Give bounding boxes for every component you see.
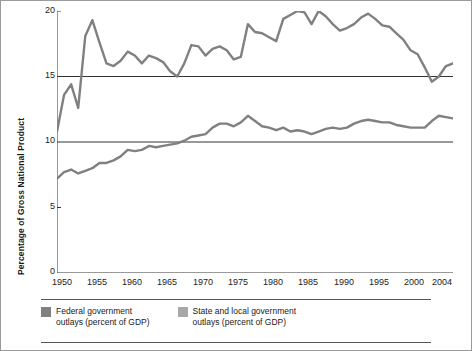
y-tick-5: 5 [31,201,55,211]
x-tick-1965: 1965 [152,277,182,287]
x-tick-2004: 2004 [427,277,457,287]
y-tick-15: 15 [31,70,55,80]
y-tick-10: 10 [31,135,55,145]
x-tick-2000: 2000 [399,277,429,287]
legend-label-state-local-line2: outlays (percent of GDP) [193,317,296,328]
legend-item-federal: Federal government outlays (percent of G… [41,306,150,328]
plot-area-wrapper: 20 15 10 5 0 1950 1955 1960 1965 1970 19… [25,11,463,289]
legend-label-state-local-line1: State and local government [193,306,296,317]
legend-label-federal-line2: outlays (percent of GDP) [56,317,150,328]
x-tick-1995: 1995 [364,277,394,287]
legend-divider-bottom [41,342,431,343]
chart-svg [57,11,453,273]
legend-label-state-local: State and local government outlays (perc… [193,306,296,328]
x-tick-1960: 1960 [117,277,147,287]
legend-label-federal-line1: Federal government [56,306,150,317]
legend-swatch-federal-icon [41,307,51,317]
x-tick-1950: 1950 [47,277,77,287]
x-tick-1975: 1975 [223,277,253,287]
chart-legend: Federal government outlays (percent of G… [41,306,381,328]
x-tick-1955: 1955 [82,277,112,287]
x-tick-1985: 1985 [293,277,323,287]
y-tick-20: 20 [31,5,55,15]
x-tick-1980: 1980 [258,277,288,287]
plot-canvas [57,11,453,273]
x-tick-1990: 1990 [329,277,359,287]
y-axis-title: Percentage of Gross National Product [3,17,19,287]
x-tick-1970: 1970 [188,277,218,287]
legend-swatch-state-local-icon [178,307,188,317]
chart-figure: Percentage of Gross National Product 20 … [0,0,472,351]
legend-item-state-local: State and local government outlays (perc… [178,306,296,328]
legend-label-federal: Federal government outlays (percent of G… [56,306,150,328]
legend-divider-top [41,299,431,300]
y-tick-0: 0 [31,266,55,276]
